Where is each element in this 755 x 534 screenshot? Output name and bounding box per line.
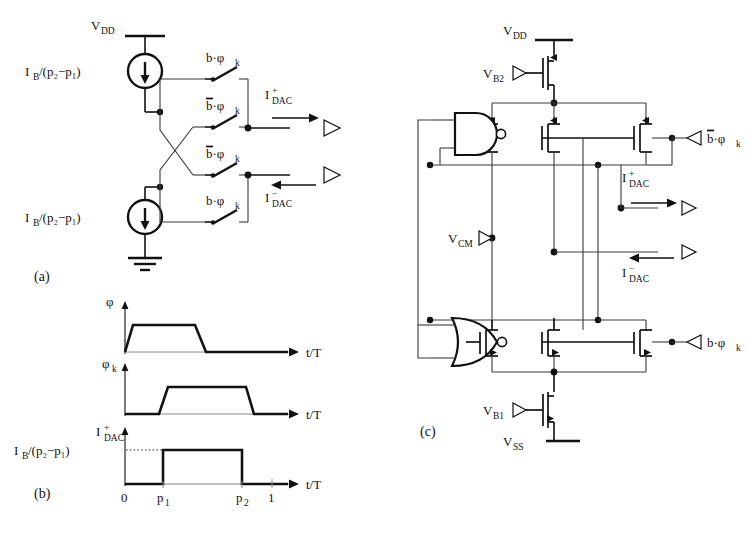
phik-ylabel-sub: k — [112, 364, 117, 374]
idac-plus-sub-c: DAC — [629, 179, 649, 189]
current-source-top — [128, 54, 163, 115]
vdd-label: V — [91, 18, 101, 33]
output-idac-plus — [245, 113, 340, 136]
transistor-nmos-middle — [542, 318, 583, 372]
xtick-p1-sub: 1 — [165, 498, 170, 508]
switch-label-3-sub: k — [235, 154, 240, 164]
transistor-pmos-vb2 — [513, 54, 557, 103]
vcm-label: V — [448, 231, 458, 246]
vb2-label: V — [483, 66, 493, 81]
vdd-label-sub: DD — [101, 26, 115, 36]
idac-minus-sub: DAC — [272, 199, 292, 209]
vdd-rail — [125, 36, 165, 54]
nmos-source-bus — [492, 369, 646, 392]
out-bbar-phik-sub: k — [736, 139, 741, 149]
source-top-num: I — [25, 64, 29, 79]
switch-label-2: b·φ — [206, 98, 224, 113]
idac-plus-main-c: I — [622, 170, 626, 185]
level-label-num: I — [14, 443, 18, 458]
transistor-pmos-right — [583, 117, 675, 165]
switch-bbar-phik-lower[interactable] — [205, 163, 248, 178]
out-b-phik-sub: k — [736, 343, 741, 353]
waveform-idac-plus: I + DAC t/T I B /(p₂−p₁) 0 p 1 p 2 1 — [14, 423, 321, 508]
figure-root: V DD I B /(p₂−p₁) I B /(p₂−p₁) b·φ k b·φ… — [0, 0, 755, 534]
vb1-label-sub: B1 — [493, 411, 504, 421]
switch-label-4: b·φ — [206, 193, 224, 208]
switch-label-1-sub: k — [235, 58, 240, 68]
vdd-label-c-sub: DD — [513, 31, 527, 41]
panel-b-timing: φ t/T φ k t/T I + DA — [0, 290, 400, 534]
panel-c-schematic: V DD V B2 V CM V B1 V SS b·φ k b·φ k I +… — [400, 0, 755, 534]
waveform-phi: φ t/T — [106, 294, 321, 360]
panel-label-b: (b) — [34, 486, 51, 502]
source-top-denom: /(p₂−p₁) — [39, 64, 81, 79]
idac-plus-main: I — [265, 87, 269, 102]
vcm-branch — [479, 165, 495, 320]
pmos-source-rail — [492, 100, 646, 117]
output-idac-minus-c — [551, 245, 696, 263]
pmos-drain-bus — [427, 162, 646, 168]
center-buses — [554, 138, 598, 330]
xtick-p1: p — [157, 490, 164, 505]
xtick-1: 1 — [268, 490, 275, 505]
switch-bbar-phik-upper[interactable] — [205, 115, 248, 130]
output-port-bbar-phik: b·φ k — [672, 131, 741, 150]
vdd-label-c: V — [503, 23, 513, 38]
idac-ylabel-sup: + — [104, 423, 109, 433]
vdd-rail-c — [535, 40, 573, 56]
idac-ylabel: I — [96, 424, 100, 439]
idac-minus-sup: − — [272, 189, 277, 199]
idac-plus-sup: + — [272, 86, 277, 96]
source-bottom-denom: /(p₂−p₁) — [39, 210, 81, 225]
source-bottom-num: I — [25, 210, 29, 225]
panel-label-c: (c) — [420, 424, 436, 440]
output-port-b-phik: b·φ k — [672, 335, 741, 353]
xtick-p2: p — [236, 490, 243, 505]
switch-label-1: b·φ — [206, 50, 224, 65]
ground-symbol — [128, 258, 162, 270]
transistor-nmos-right — [583, 330, 675, 372]
nand-input-wires — [418, 120, 440, 325]
phi-ylabel: φ — [106, 294, 114, 309]
idac-minus-main: I — [265, 190, 269, 205]
idac-minus-main-c: I — [622, 265, 626, 280]
vcm-label-sub: CM — [458, 239, 473, 249]
idac-xlabel: t/T — [306, 477, 321, 492]
phik-ylabel: φ — [102, 356, 110, 371]
current-source-bottom — [128, 184, 163, 258]
vb2-label-sub: B2 — [493, 74, 504, 84]
idac-minus-sup-c: − — [629, 264, 634, 274]
idac-plus-sub: DAC — [272, 96, 292, 106]
phi-xlabel: t/T — [306, 345, 321, 360]
out-b-phik-label: b·φ — [707, 335, 725, 350]
panel-a-schematic: V DD I B /(p₂−p₁) I B /(p₂−p₁) b·φ k b·φ… — [0, 0, 400, 290]
vss-label-sub: SS — [513, 442, 524, 452]
panel-label-a: (a) — [34, 269, 50, 285]
out-bbar-phik-label: b·φ — [707, 131, 725, 146]
xtick-p2-sub: 2 — [244, 498, 249, 508]
idac-minus-sub-c: DAC — [629, 274, 649, 284]
switch-label-4-sub: k — [235, 201, 240, 211]
xtick-0: 0 — [121, 490, 128, 505]
vss-label: V — [503, 434, 513, 449]
vb1-label: V — [483, 403, 493, 418]
panel-a-wiring — [160, 79, 205, 222]
output-idac-minus — [245, 167, 340, 190]
level-label-denom: /(p₂−p₁) — [28, 443, 70, 458]
transistor-pmos-middle — [542, 117, 583, 165]
switch-label-3: b·φ — [206, 146, 224, 161]
switch-label-2-sub: k — [235, 106, 240, 116]
phik-xlabel: t/T — [306, 407, 321, 422]
idac-ylabel-sub: DAC — [104, 433, 124, 443]
transistor-nmos-vb1 — [513, 392, 580, 441]
idac-plus-sup-c: + — [629, 169, 634, 179]
waveform-phi-k: φ k t/T — [102, 356, 321, 422]
nor-gate — [418, 318, 507, 366]
